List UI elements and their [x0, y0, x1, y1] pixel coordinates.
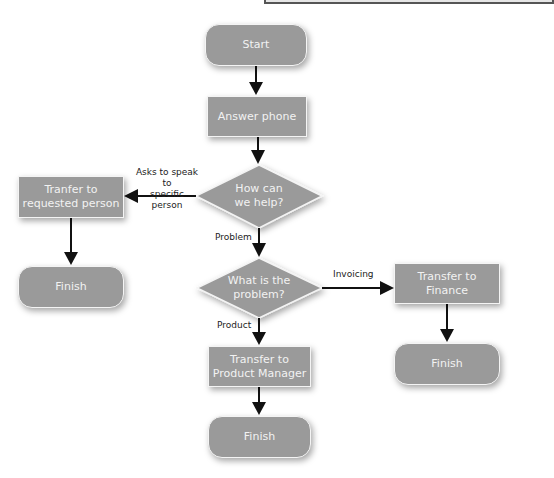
node-tranfer-requested-person: Tranfer to requested person: [18, 176, 124, 218]
node-answer-phone: Answer phone: [207, 96, 307, 137]
decision-what-is-problem-line2: problem?: [233, 288, 284, 302]
edge-label-specific-person-line1: Asks to speak to: [134, 167, 200, 189]
decision-how-can-we-help-line1: How can: [235, 182, 282, 196]
node-start: Start: [205, 24, 307, 66]
node-finish-right: Finish: [394, 343, 500, 385]
node-start-label: Start: [243, 38, 270, 52]
decision-how-can-we-help: How can we help?: [206, 176, 312, 216]
edge-label-specific-person: Asks to speak to specific person: [134, 167, 200, 211]
decision-what-is-problem-line1: What is the: [228, 274, 291, 288]
node-finish-left: Finish: [18, 266, 124, 308]
node-transfer-finance-label: Transfer to Finance: [395, 270, 499, 298]
node-product-line1: Transfer to: [230, 353, 289, 367]
node-product-line2: Product Manager: [213, 367, 306, 381]
decision-what-is-problem: What is the problem?: [206, 268, 312, 308]
node-finish-bottom-label: Finish: [244, 430, 275, 444]
node-finish-left-label: Finish: [55, 280, 86, 294]
node-finish-right-label: Finish: [431, 357, 462, 371]
node-transfer-finance: Transfer to Finance: [394, 263, 500, 304]
edge-label-product: Product: [217, 320, 251, 331]
node-transfer-product-manager: Transfer to Product Manager: [208, 346, 311, 387]
edge-label-problem: Problem: [215, 232, 252, 243]
node-finish-bottom: Finish: [208, 416, 311, 458]
edge-label-invoicing: Invoicing: [333, 269, 374, 280]
node-answer-phone-label: Answer phone: [218, 110, 296, 124]
node-tranfer-line2: requested person: [23, 197, 120, 211]
node-tranfer-line1: Tranfer to: [44, 183, 97, 197]
decision-how-can-we-help-line2: we help?: [235, 196, 284, 210]
edge-label-specific-person-line2: specific person: [134, 189, 200, 211]
